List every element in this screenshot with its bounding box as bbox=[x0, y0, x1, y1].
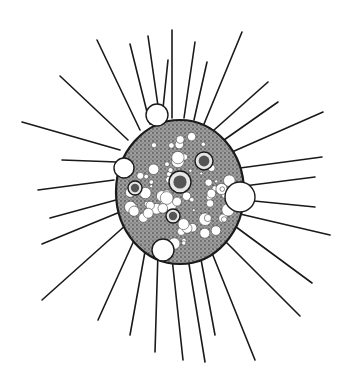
ray bbox=[98, 236, 136, 320]
large-vacuole bbox=[225, 182, 255, 212]
ray bbox=[130, 246, 146, 335]
nucleus-core bbox=[199, 156, 210, 167]
vacuole bbox=[201, 142, 205, 146]
vacuole bbox=[215, 180, 218, 183]
vacuole bbox=[158, 204, 168, 214]
large-vacuole bbox=[114, 158, 134, 178]
ray bbox=[42, 224, 127, 300]
protist-illustration bbox=[0, 0, 351, 388]
nucleus-core bbox=[173, 175, 186, 188]
ray bbox=[188, 258, 205, 362]
vacuole bbox=[143, 208, 153, 218]
ray bbox=[22, 122, 120, 150]
vacuole bbox=[169, 143, 175, 149]
vacuole bbox=[220, 187, 225, 192]
nucleus-core bbox=[131, 184, 139, 192]
ray bbox=[224, 102, 278, 140]
vacuole bbox=[200, 172, 203, 175]
ray bbox=[200, 254, 215, 335]
vacuole bbox=[149, 180, 154, 185]
ray bbox=[222, 238, 300, 316]
vacuole bbox=[189, 169, 192, 172]
vacuole bbox=[160, 192, 173, 205]
ray bbox=[232, 224, 312, 283]
vacuole bbox=[172, 151, 184, 163]
vacuole bbox=[207, 189, 216, 198]
ray bbox=[240, 157, 322, 168]
vacuole bbox=[192, 209, 195, 212]
ray bbox=[60, 76, 128, 140]
vacuole bbox=[205, 179, 212, 186]
nucleus-core bbox=[169, 212, 177, 220]
vacuole bbox=[176, 136, 184, 144]
vacuole bbox=[151, 143, 156, 148]
vacuole bbox=[150, 185, 153, 188]
ray bbox=[62, 160, 117, 162]
vacuole bbox=[178, 219, 189, 230]
vacuole bbox=[182, 241, 186, 245]
vacuole bbox=[148, 164, 159, 175]
ray bbox=[50, 200, 116, 218]
vacuole bbox=[168, 168, 173, 173]
ray bbox=[214, 82, 268, 130]
vacuole bbox=[221, 217, 226, 222]
vacuole bbox=[173, 197, 182, 206]
large-vacuole bbox=[146, 104, 168, 126]
ray bbox=[38, 180, 114, 190]
ray bbox=[155, 252, 158, 352]
vacuole bbox=[137, 172, 144, 179]
ray bbox=[184, 42, 195, 118]
vacuole bbox=[200, 228, 210, 238]
vacuole bbox=[206, 200, 214, 208]
ray bbox=[240, 214, 330, 235]
vacuole bbox=[129, 206, 139, 216]
vacuole bbox=[187, 133, 195, 141]
vacuole bbox=[144, 174, 149, 179]
ray bbox=[194, 62, 207, 120]
vacuole bbox=[165, 162, 170, 167]
large-vacuole bbox=[152, 239, 174, 261]
ray bbox=[172, 258, 183, 360]
ray bbox=[244, 177, 315, 186]
vacuole bbox=[189, 197, 194, 202]
vacuole bbox=[204, 214, 211, 221]
vacuole bbox=[211, 226, 221, 236]
ray bbox=[232, 112, 323, 152]
